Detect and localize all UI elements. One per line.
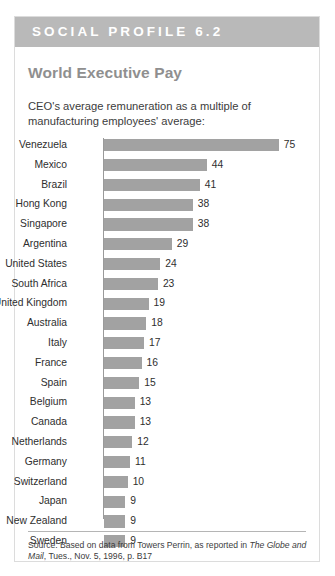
bar-row: Switzerland10 — [15, 473, 319, 493]
bar-row: Argentina29 — [15, 235, 319, 255]
bar — [104, 238, 171, 250]
bar-row: Singapore38 — [15, 215, 319, 235]
bar-category-label: Mexico — [34, 159, 67, 170]
bar-value-label: 38 — [198, 218, 209, 229]
bar-row: United States24 — [15, 255, 319, 275]
bar-row: Hong Kong38 — [15, 195, 319, 215]
bar-row: Japan9 — [15, 492, 319, 512]
bar — [104, 278, 157, 290]
bar-row: Canada13 — [15, 413, 319, 433]
bar-value-label: 16 — [147, 357, 158, 368]
bar-row: New Zealand9 — [15, 512, 319, 532]
bar-category-label: Netherlands — [11, 436, 67, 447]
bar-row: Australia18 — [15, 314, 319, 334]
bar-category-label: Venezuela — [19, 139, 67, 150]
bar-value-label: 13 — [140, 416, 151, 427]
source-divider — [28, 531, 306, 532]
bar-value-label: 18 — [151, 317, 162, 328]
bar-category-label: Japan — [39, 495, 67, 506]
card-header-label: SOCIAL PROFILE 6.2 — [32, 24, 223, 39]
bar-category-label: Hong Kong — [15, 198, 67, 209]
bar-row: France16 — [15, 354, 319, 374]
bar-category-label: Italy — [48, 337, 67, 348]
bar-category-label: Australia — [27, 317, 67, 328]
source-prefix: Source: Based on data from Towers Perrin… — [28, 540, 249, 550]
bar-category-label: Germany — [25, 456, 67, 467]
page-root: SOCIAL PROFILE 6.2 World Executive Pay C… — [0, 0, 335, 576]
chart-title: World Executive Pay — [28, 64, 182, 82]
bar — [104, 357, 141, 369]
bar-value-label: 9 — [130, 495, 136, 506]
bar-value-label: 38 — [198, 198, 209, 209]
bar-value-label: 11 — [135, 456, 146, 467]
bar-row: South Africa23 — [15, 275, 319, 295]
bar — [104, 317, 146, 329]
bar-category-label: Canada — [31, 416, 67, 427]
social-profile-card: SOCIAL PROFILE 6.2 World Executive Pay C… — [14, 16, 320, 562]
bar — [104, 496, 125, 508]
bar-value-label: 23 — [163, 278, 174, 289]
bar-row: Venezuela75 — [15, 136, 319, 156]
bar-category-label: Spain — [41, 377, 67, 388]
bar-chart-plot: Venezuela75Mexico44Brazil41Hong Kong38Si… — [15, 136, 319, 521]
bar-category-label: Brazil — [41, 179, 67, 190]
source-note: Source: Based on data from Towers Perrin… — [28, 540, 308, 563]
bar — [104, 159, 206, 171]
card-header-band: SOCIAL PROFILE 6.2 — [15, 17, 319, 47]
bar-value-label: 10 — [133, 476, 144, 487]
bar-value-label: 41 — [205, 179, 216, 190]
bar-category-label: South Africa — [11, 278, 67, 289]
bar-category-label: Singapore — [20, 218, 67, 229]
bar-value-label: 24 — [165, 258, 176, 269]
bar-value-label: 15 — [144, 377, 155, 388]
bar — [104, 377, 139, 389]
bar — [104, 456, 130, 468]
bar-row: Italy17 — [15, 334, 319, 354]
bar-row: Mexico44 — [15, 156, 319, 176]
bar-value-label: 29 — [177, 238, 188, 249]
bar-value-label: 44 — [212, 159, 223, 170]
bar-category-label: France — [35, 357, 67, 368]
bar-row: Germany11 — [15, 453, 319, 473]
bar — [104, 397, 134, 409]
bar — [104, 218, 192, 230]
bar — [104, 337, 144, 349]
bar — [104, 476, 127, 488]
bar — [104, 199, 192, 211]
bar-row: Spain15 — [15, 374, 319, 394]
bar-value-label: 17 — [149, 337, 160, 348]
bar — [104, 298, 148, 310]
card-body: World Executive Pay CEO's average remune… — [15, 47, 319, 561]
bar — [104, 515, 125, 527]
bar — [104, 179, 199, 191]
bar-category-label: United Kingdom — [0, 297, 67, 308]
bar-category-label: New Zealand — [6, 515, 67, 526]
bar-category-label: United States — [5, 258, 67, 269]
bar-value-label: 75 — [284, 139, 295, 150]
bar — [104, 139, 278, 151]
bar-value-label: 19 — [154, 297, 165, 308]
bar-value-label: 12 — [137, 436, 148, 447]
bar-row: United Kingdom19 — [15, 294, 319, 314]
chart-subtitle: CEO's average remuneration as a multiple… — [28, 99, 304, 128]
bar-row: Netherlands12 — [15, 433, 319, 453]
bar — [104, 436, 132, 448]
bar-value-label: 13 — [140, 396, 151, 407]
bar-row: Belgium13 — [15, 393, 319, 413]
bar-row: Brazil41 — [15, 176, 319, 196]
source-suffix: , Tues., Nov. 5, 1996, p. B17 — [44, 551, 152, 561]
bar-category-label: Argentina — [23, 238, 67, 249]
bar-value-label: 9 — [130, 515, 136, 526]
bar — [104, 416, 134, 428]
bar-category-label: Switzerland — [14, 476, 67, 487]
bar-category-label: Belgium — [30, 396, 67, 407]
bar — [104, 258, 160, 270]
